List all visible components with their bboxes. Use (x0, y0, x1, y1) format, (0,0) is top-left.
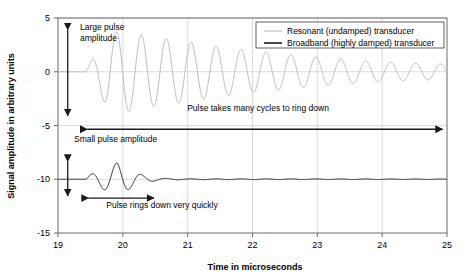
annotation-large-pulse-line1: Large pulse (80, 22, 125, 32)
legend-label-1: Broadband (highly damped) transducer (287, 38, 435, 48)
xtick-label: 19 (53, 240, 63, 250)
xtick-label: 21 (183, 240, 193, 250)
xtick-label: 22 (247, 240, 257, 250)
ytick-label: -5 (42, 121, 50, 131)
ytick-label: 5 (45, 13, 50, 23)
xtick-label: 24 (377, 240, 387, 250)
ytick-label: -10 (37, 174, 50, 184)
annotation-large-pulse-line2: amplitude (80, 33, 117, 43)
ytick-label: -15 (37, 228, 50, 238)
xtick-label: 25 (442, 240, 452, 250)
waveform-comparison-chart: 1920212223242550-5-10-15Time in microsec… (0, 0, 468, 275)
legend-label-0: Resonant (undamped) transducer (287, 26, 414, 36)
chart-figure: 1920212223242550-5-10-15Time in microsec… (0, 0, 468, 275)
annotation-small-pulse: Small pulse amplitude (74, 134, 157, 144)
ytick-label: 0 (45, 67, 50, 77)
annotation-many-cycles: Pulse takes many cycles to ring down (187, 103, 329, 113)
x-axis-title: Time in microseconds (208, 262, 303, 272)
annotation-rings-down: Pulse rings down very quickly (106, 200, 218, 210)
xtick-label: 20 (118, 240, 128, 250)
y-axis-title: Signal amplitude in arbitrary units (6, 53, 16, 199)
xtick-label: 23 (312, 240, 322, 250)
